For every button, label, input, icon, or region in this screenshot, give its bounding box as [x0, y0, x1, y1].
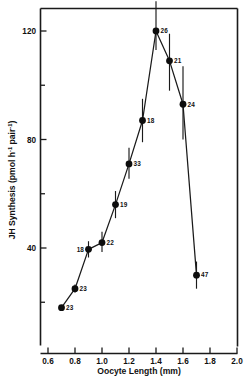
- data-point: [180, 101, 187, 108]
- x-axis-ticks: [48, 348, 237, 354]
- x-axis-title: Oocyte Length (mm): [97, 366, 181, 376]
- x-tick-label: 1.8: [204, 357, 216, 366]
- axes-frame: [41, 9, 238, 354]
- chart-svg: 4080120 0.60.81.01.21.41.61.82.0 2323182…: [0, 0, 249, 384]
- sample-size-label: 33: [134, 160, 142, 167]
- data-point: [153, 28, 160, 35]
- x-tick-label: 1.4: [150, 357, 162, 366]
- data-point: [126, 161, 133, 168]
- y-tick-label: 120: [22, 27, 36, 36]
- sample-size-label: 18: [77, 246, 85, 253]
- sample-size-labels: 2323182219331826212447: [66, 27, 209, 311]
- x-tick-label: 1.6: [177, 357, 189, 366]
- y-axis-title: JH Synthesis (pmol h-1 pair-1): [7, 121, 17, 240]
- x-tick-label: 1.2: [123, 357, 135, 366]
- x-tick-label: 2.0: [231, 357, 243, 366]
- y-tick-label: 40: [27, 244, 37, 253]
- sample-size-label: 23: [66, 304, 74, 311]
- data-point: [99, 239, 106, 246]
- sample-size-label: 26: [161, 27, 169, 34]
- x-tick-label: 0.8: [69, 357, 81, 366]
- y-tick-label: 80: [27, 136, 37, 145]
- data-point: [166, 57, 173, 64]
- y-axis-ticks: [41, 31, 47, 302]
- jh-synthesis-chart: 4080120 0.60.81.01.21.41.61.82.0 2323182…: [0, 0, 249, 384]
- data-point: [72, 285, 79, 292]
- sample-size-label: 19: [120, 201, 128, 208]
- x-tick-label: 0.6: [42, 357, 54, 366]
- sample-size-label: 23: [80, 285, 88, 292]
- y-axis-tick-labels: 4080120: [22, 27, 36, 253]
- data-point: [58, 304, 65, 311]
- data-point: [193, 272, 200, 279]
- x-axis-tick-labels: 0.60.81.01.21.41.61.82.0: [42, 357, 243, 366]
- x-tick-label: 1.0: [96, 357, 108, 366]
- data-point: [112, 201, 119, 208]
- sample-size-label: 22: [107, 239, 115, 246]
- sample-size-label: 24: [188, 101, 196, 108]
- error-bars-group: [75, 1, 197, 293]
- data-point: [139, 117, 146, 124]
- sample-size-label: 21: [174, 57, 182, 64]
- data-point: [85, 246, 92, 253]
- sample-size-label: 47: [201, 271, 209, 278]
- sample-size-label: 18: [147, 117, 155, 124]
